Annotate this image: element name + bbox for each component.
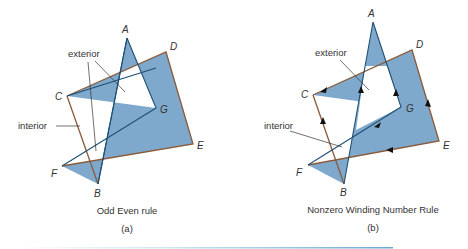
sublabel-a: (a)	[121, 223, 133, 234]
vertex-label-a: A	[121, 24, 129, 35]
vertex-label-f: F	[296, 167, 303, 178]
exterior-label: exterior	[315, 47, 347, 58]
vertex-label-d: D	[416, 39, 423, 50]
panel-b: A D C G E F B exterior interior Nonzero …	[264, 8, 450, 233]
arrow-c-d	[320, 87, 327, 93]
caption-b: Nonzero Winding Number Rule	[307, 204, 438, 215]
vertex-label-e: E	[197, 140, 204, 151]
caption-a: Odd Even rule	[97, 205, 158, 216]
vertex-label-e: E	[443, 140, 450, 151]
interior-label: interior	[18, 120, 47, 131]
interior-leader	[290, 131, 342, 147]
bottom-rule	[15, 247, 393, 249]
sublabel-b: (b)	[367, 222, 379, 233]
exterior-leader-1	[88, 62, 96, 151]
vertex-label-c: C	[55, 91, 63, 102]
vertex-label-b: B	[340, 187, 347, 198]
diagram-canvas: A D C G E F B exterior interior Odd Even…	[0, 0, 468, 249]
vertex-label-f: F	[51, 168, 58, 179]
interior-label: interior	[264, 120, 293, 131]
vertex-label-b: B	[94, 188, 101, 199]
vertex-label-g: G	[406, 103, 414, 114]
vertex-label-a: A	[367, 8, 375, 19]
panel-a: A D C G E F B exterior interior Odd Even…	[18, 24, 204, 234]
vertex-label-c: C	[301, 89, 309, 100]
vertex-label-d: D	[170, 41, 177, 52]
exterior-label: exterior	[68, 48, 100, 59]
vertex-label-g: G	[160, 104, 168, 115]
